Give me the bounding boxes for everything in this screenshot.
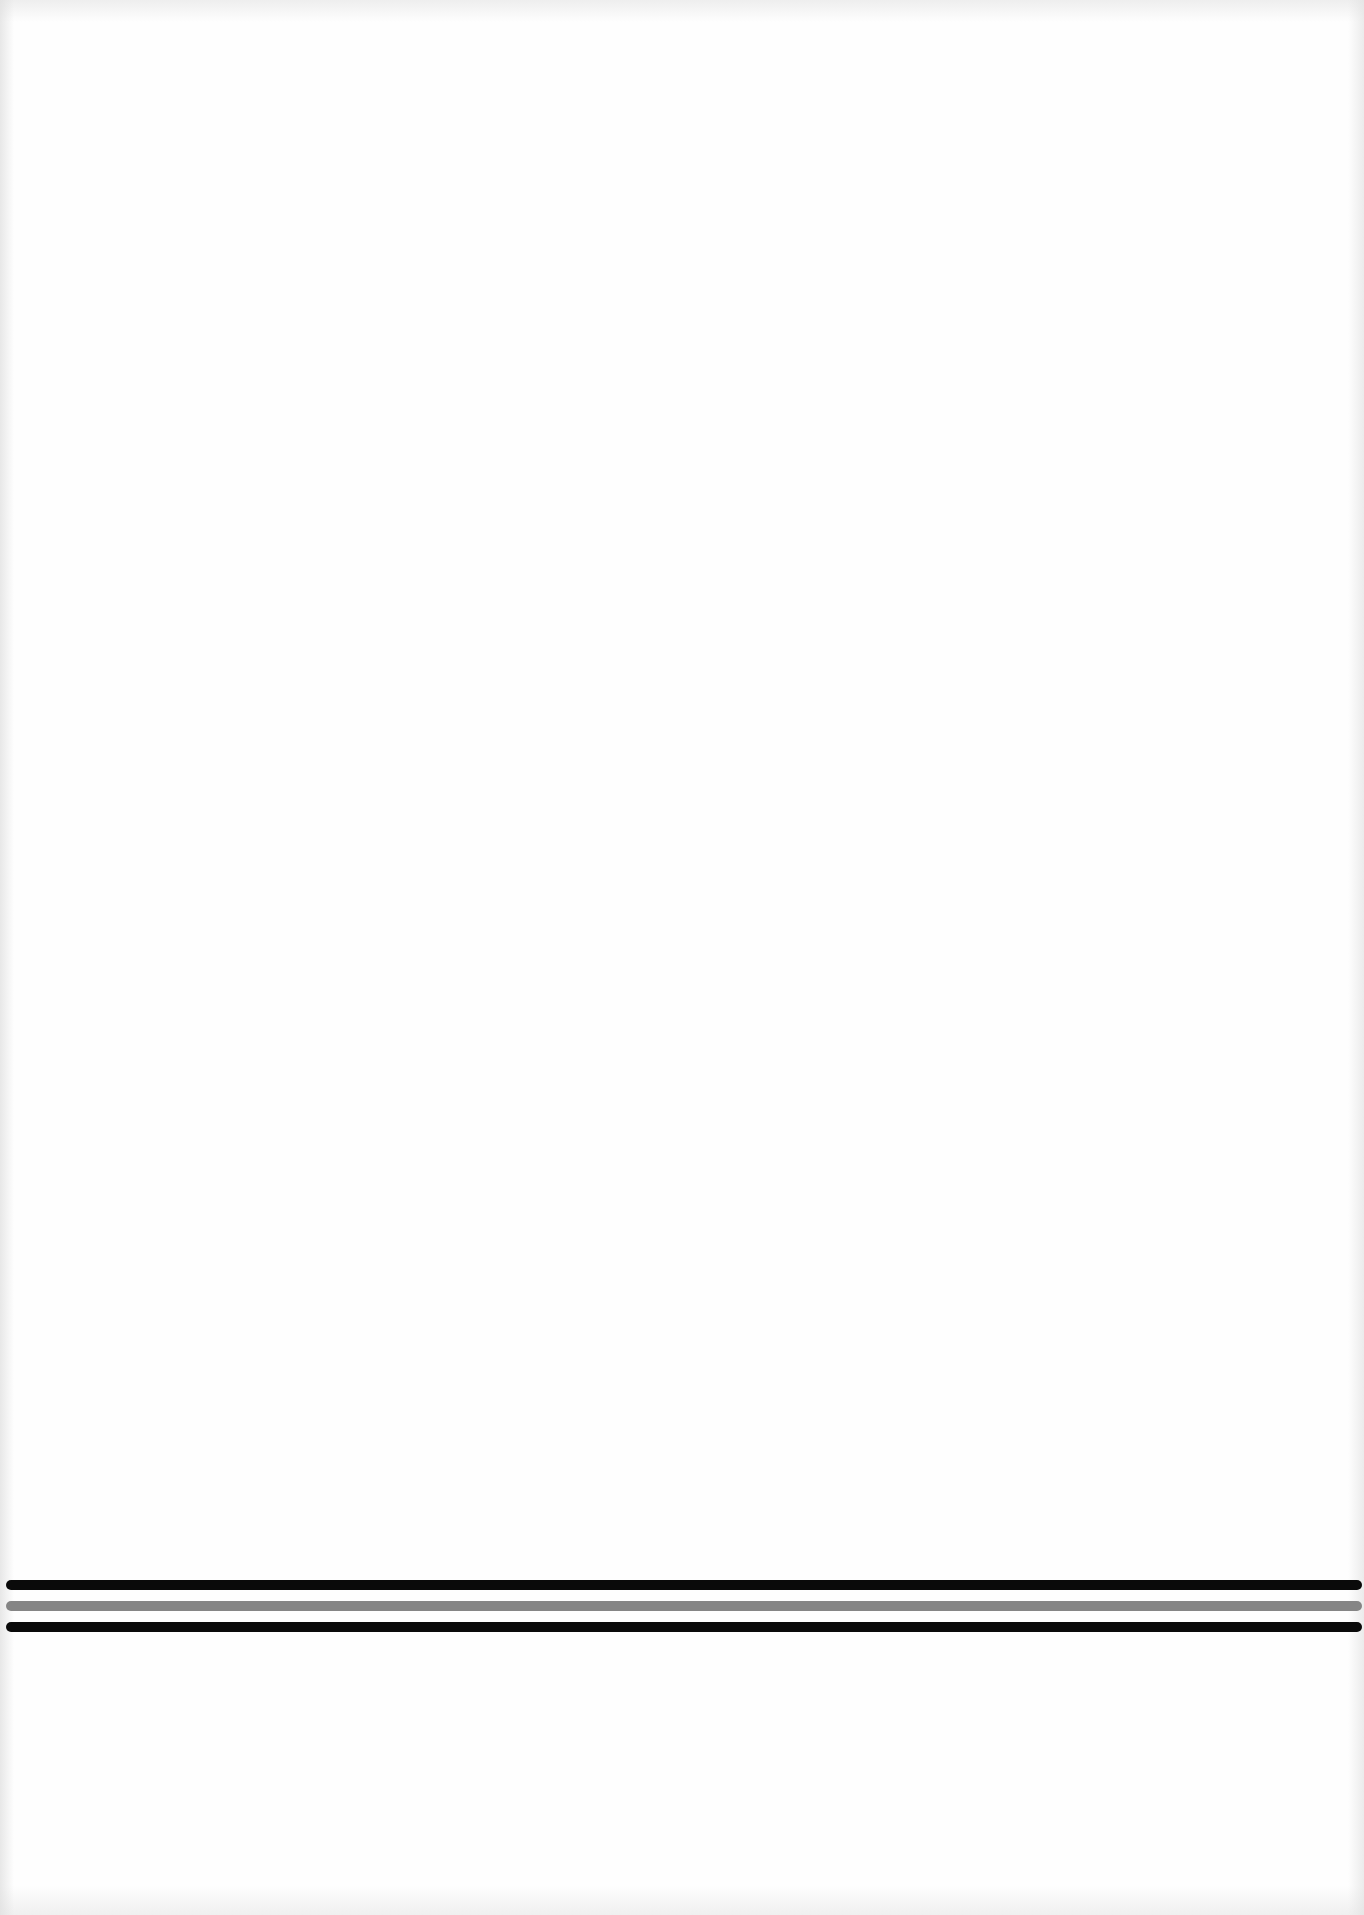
scan-edge-shadow-left: [0, 0, 14, 1915]
document-page: [0, 0, 1364, 1915]
top-black-rule: [6, 1580, 1362, 1590]
middle-gray-rule: [6, 1601, 1362, 1611]
scan-edge-shadow-right: [1348, 0, 1364, 1915]
bottom-black-rule: [6, 1622, 1362, 1632]
scan-edge-shadow-top: [0, 0, 1364, 22]
scan-edge-shadow-bottom: [0, 1885, 1364, 1915]
horizontal-rules-group: [0, 0, 1364, 1915]
